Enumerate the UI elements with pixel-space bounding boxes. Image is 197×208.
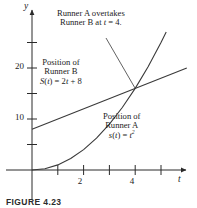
runner-a-equation: s(t) = t2 [103,131,140,140]
x-tick-label-2: 2 [75,177,85,187]
y-tick-label-20: 20 [8,62,24,72]
overtake-annotation: Runner A overtakes Runner B at t = 4. [57,9,125,28]
runner-b-annotation: Position of Runner B S(t) = 2t + 8 [40,58,82,86]
runner-b-eq-tail: + 8 [68,76,81,86]
runner-b-eq-body: = 2 [52,76,65,86]
graph-canvas [0,0,197,208]
overtake-annotation-line2-pre: Runner B at [60,17,104,27]
y-tick-label-10: 10 [8,113,24,123]
overtake-annotation-line2-post: = 4. [106,17,122,27]
x-tick-label-4: 4 [127,177,137,187]
x-axis-label: t [178,174,181,184]
figure-caption: FIGURE 4.23 [6,198,61,207]
runner-a-eq-exp: 2 [132,129,135,135]
overtake-leader-line [106,38,135,88]
runner-a-curve [32,32,166,170]
overtake-annotation-line2: Runner B at t = 4. [57,18,125,27]
runner-a-annotation: Position of Runner A s(t) = t2 [103,112,140,140]
runner-b-equation: S(t) = 2t + 8 [40,77,82,86]
figure-container: y t 20 10 2 4 Runner A overtakes Runner … [0,0,197,208]
y-axis-label: y [24,1,28,11]
